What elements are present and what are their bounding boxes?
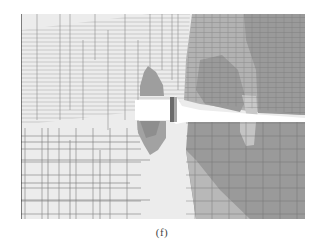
plot-area	[21, 14, 305, 219]
contour-plot	[0, 0, 324, 247]
fem-contour-figure: (f)	[0, 0, 324, 247]
figure-caption: (f)	[0, 226, 324, 238]
